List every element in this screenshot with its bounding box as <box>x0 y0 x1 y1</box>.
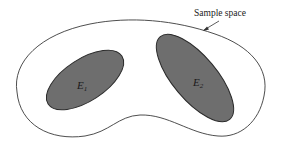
sample-space-diagram: E1 E2 Sample space <box>0 0 284 149</box>
pointer-arrow-icon <box>203 21 219 31</box>
sample-space-label: Sample space <box>194 8 246 18</box>
